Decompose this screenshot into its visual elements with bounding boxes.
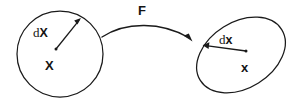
current-position-label: x (241, 61, 248, 74)
mapping-arrow-curve (102, 25, 189, 37)
reference-differential-vector (55, 18, 82, 51)
reference-vector-arrowhead (74, 18, 81, 24)
current-differential-label: dx (219, 33, 232, 47)
current-differential-vector-letter: x (226, 33, 233, 47)
figure-canvas (0, 0, 305, 106)
deformation-figure: F dX X dx x (0, 0, 305, 106)
mapping-arrow (102, 25, 193, 41)
reference-differential-label: dX (33, 26, 48, 40)
mapping-arrow-head (184, 33, 193, 41)
reference-differential-vector-letter: X (40, 26, 48, 40)
mapping-label-F: F (138, 4, 146, 17)
reference-body-circle (17, 11, 103, 97)
current-body-ellipse (183, 2, 299, 106)
reference-position-label: X (45, 59, 54, 72)
reference-vector-shaft (56, 20, 79, 49)
